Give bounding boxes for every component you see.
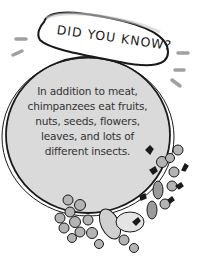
emphasis-dashes-left <box>13 39 26 55</box>
fact-line: chimpanzees eat fruits, <box>20 99 155 114</box>
emphasis-dashes-right <box>172 53 188 86</box>
fact-line: nuts, seeds, flowers, <box>20 114 155 129</box>
fact-line: In addition to meat, <box>20 84 155 99</box>
fact-text: In addition to meat, chimpanzees eat fru… <box>20 84 155 159</box>
fact-line: leaves, and lots of <box>20 129 155 144</box>
fact-line: different insects. <box>20 144 155 159</box>
